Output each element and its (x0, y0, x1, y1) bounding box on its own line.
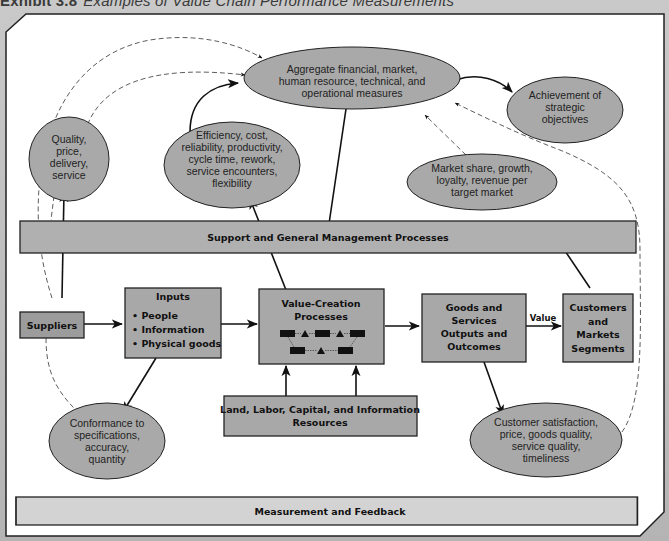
svg-text:• Physical goods: • Physical goods (132, 338, 221, 349)
ellipse-market-share: Market share, growth, loyalty, revenue p… (407, 154, 557, 210)
svg-text:Achievement of: Achievement of (529, 89, 601, 101)
svg-text:objectives: objectives (542, 113, 589, 125)
svg-text:price, goods quality,: price, goods quality, (500, 428, 593, 440)
svg-text:Measurement and Feedback: Measurement and Feedback (254, 506, 406, 517)
box-inputs: Inputs • People • Information • Physical… (125, 288, 221, 358)
svg-text:Value-Creation: Value-Creation (281, 298, 360, 309)
svg-text:service: service (52, 169, 85, 181)
svg-text:Market share, growth,: Market share, growth, (431, 162, 533, 174)
svg-text:Support and General Management: Support and General Management Processes (207, 232, 449, 243)
svg-text:Aggregate financial, market,: Aggregate financial, market, (287, 63, 418, 75)
svg-text:Efficiency, cost,: Efficiency, cost, (196, 129, 268, 141)
measurement-feedback-bar: Measurement and Feedback (16, 497, 637, 525)
svg-text:Resources: Resources (292, 417, 347, 428)
svg-text:Processes: Processes (294, 311, 348, 322)
svg-text:specifications,: specifications, (74, 429, 140, 441)
svg-text:service encounters,: service encounters, (186, 165, 277, 177)
box-goods-services: Goods and Services Outputs and Outcomes (422, 294, 526, 362)
svg-text:operational measures: operational measures (302, 87, 403, 99)
ellipse-strategic-objectives: Achievement of strategic objectives (507, 77, 623, 143)
svg-text:Land, Labor, Capital, and Info: Land, Labor, Capital, and Information (220, 404, 420, 415)
svg-text:Customer satisfaction,: Customer satisfaction, (494, 416, 598, 428)
box-resources: Land, Labor, Capital, and Information Re… (220, 396, 420, 436)
svg-text:Suppliers: Suppliers (27, 320, 78, 331)
svg-text:Segments: Segments (571, 343, 625, 354)
svg-text:Services: Services (451, 315, 496, 326)
svg-text:Quality,: Quality, (52, 133, 87, 145)
ellipse-quality-price: Quality, price, delivery, service (29, 117, 109, 201)
svg-text:Conformance to: Conformance to (70, 417, 145, 429)
svg-text:Goods and: Goods and (446, 302, 503, 313)
ellipse-conformance: Conformance to specifications, accuracy,… (49, 403, 165, 479)
ellipse-customer-satisfaction: Customer satisfaction, price, goods qual… (470, 403, 622, 477)
svg-text:human resource, technical, and: human resource, technical, and (279, 75, 426, 87)
svg-text:Markets: Markets (576, 329, 620, 340)
svg-text:quantity: quantity (89, 453, 127, 465)
svg-text:Inputs: Inputs (156, 291, 190, 302)
value-arrow-label: Value (530, 313, 557, 323)
svg-text:service quality,: service quality, (512, 440, 581, 452)
svg-text:flexibility: flexibility (212, 177, 252, 189)
svg-text:accuracy,: accuracy, (85, 441, 129, 453)
ellipse-aggregate-measures: Aggregate financial, market, human resou… (244, 47, 460, 109)
svg-text:delivery,: delivery, (50, 157, 88, 169)
svg-text:loyalty, revenue per: loyalty, revenue per (437, 174, 528, 186)
svg-text:strategic: strategic (545, 101, 585, 113)
svg-text:reliability, productivity,: reliability, productivity, (181, 141, 282, 153)
svg-text:Customers: Customers (569, 302, 626, 313)
value-chain-diagram: Aggregate financial, market, human resou… (0, 0, 669, 541)
svg-text:target market: target market (451, 186, 513, 198)
box-suppliers: Suppliers (20, 312, 84, 338)
svg-text:Outputs and: Outputs and (441, 328, 507, 339)
svg-text:price,: price, (56, 145, 82, 157)
svg-text:cycle time, rework,: cycle time, rework, (189, 153, 276, 165)
svg-text:and: and (588, 316, 608, 327)
svg-text:Outcomes: Outcomes (447, 341, 501, 352)
support-processes-bar: Support and General Management Processes (20, 221, 636, 253)
box-value-creation: Value-Creation Processes (259, 289, 384, 364)
svg-text:• Information: • Information (132, 324, 205, 335)
svg-text:• People: • People (132, 310, 178, 321)
svg-text:timeliness: timeliness (523, 452, 570, 464)
box-customers-markets: Customers and Markets Segments (563, 294, 633, 362)
ellipse-efficiency-cost: Efficiency, cost, reliability, productiv… (164, 122, 300, 208)
